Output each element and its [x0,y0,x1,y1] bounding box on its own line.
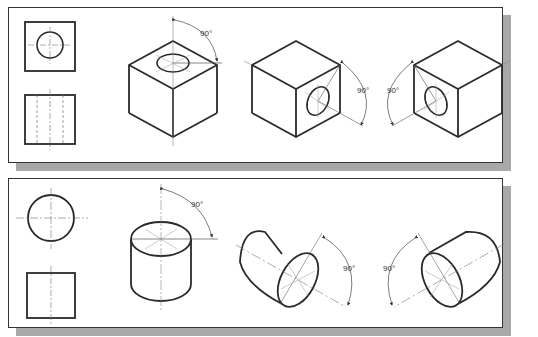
iso-cylinder-vertical [131,184,218,312]
cube-top-view [25,22,75,71]
angle-label: 90° [383,264,395,273]
angle-label: 90° [387,86,399,95]
angle-label: 90° [200,29,212,38]
angle-label: 90° [343,264,355,273]
cylinder-front-view [27,266,75,324]
angle-label: 90° [357,86,369,95]
cube-front-view [25,89,75,150]
angle-label: 90° [191,200,203,209]
iso-cylinder-axis-right [236,231,352,313]
cylinder-top-view [16,188,88,249]
iso-cube-hole-left [387,41,510,137]
iso-cylinder-axis-left [388,232,504,314]
iso-cube-hole-right [244,41,367,137]
drawing-canvas: 90° 90° 90° [0,0,538,337]
